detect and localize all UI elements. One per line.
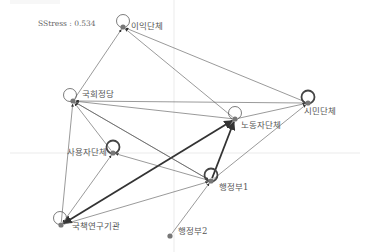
node-labor	[232, 116, 237, 121]
node-interest	[120, 24, 125, 29]
edge-employer-to-assembly	[75, 103, 111, 150]
node-label-labor: 노동자단체	[241, 120, 281, 130]
node-admin1	[208, 178, 213, 183]
edge-research-to-admin1	[64, 182, 208, 224]
edge-civic-to-interest	[126, 28, 305, 102]
grid-lines	[10, 0, 360, 252]
edge-admin1-to-employer	[116, 154, 208, 180]
node-research	[58, 222, 63, 227]
node-label-admin2: 행정부2	[178, 226, 207, 236]
node-label-interest: 이익단체	[131, 21, 163, 31]
edge-admin1-to-civic	[213, 105, 305, 179]
node-label-employer: 사용자단체	[67, 147, 107, 157]
node-civic	[305, 100, 310, 105]
node-label-research: 국책연구기관	[72, 221, 120, 231]
edge-research-to-assembly	[61, 104, 72, 222]
edge-labor-to-civic	[238, 104, 305, 119]
node-assembly	[70, 98, 75, 103]
stress-value-label: SStress : 0.534	[38, 19, 96, 28]
edge-civic-to-assembly	[76, 101, 305, 103]
node-labels: 이익단체국회정당노동자단체시민단체사용자단체행정부1국책연구기관행정부2	[67, 21, 336, 236]
network-diagram: SStress : 0.534 이익단체국회정당노동자단체시민단체사용자단체행정…	[0, 0, 366, 252]
node-label-assembly: 국회정당	[82, 89, 114, 99]
node-employer	[110, 150, 115, 155]
edge-research-to-labor	[64, 121, 233, 224]
node-label-civic: 시민단체	[304, 106, 336, 116]
node-label-admin1: 행정부1	[219, 182, 248, 192]
edges	[61, 28, 305, 234]
self-loop-research	[54, 212, 67, 225]
node-admin2	[167, 233, 172, 238]
edge-labor-to-interest	[125, 29, 232, 117]
